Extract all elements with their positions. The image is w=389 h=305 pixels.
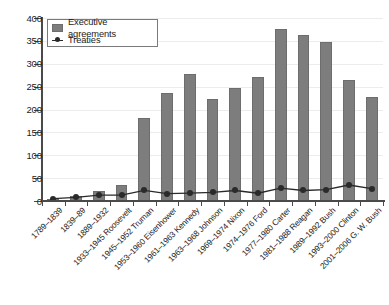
y-axis-tick-label: 400 xyxy=(12,14,42,23)
data-point-marker xyxy=(164,191,170,197)
data-point-marker xyxy=(187,190,193,196)
data-point-marker xyxy=(323,187,329,193)
legend: Executive agreements Treaties xyxy=(47,19,158,47)
data-point-marker xyxy=(369,186,375,192)
data-point-marker xyxy=(96,192,102,198)
y-axis-tick-label: 300 xyxy=(12,59,42,68)
data-point-marker xyxy=(210,189,216,195)
y-axis-tick-label: 200 xyxy=(12,105,42,114)
line-dot-icon xyxy=(52,36,63,44)
data-point-marker xyxy=(119,192,125,198)
y-axis-tick-label: 150 xyxy=(12,128,42,137)
legend-item-executive-agreements: Executive agreements xyxy=(52,22,154,34)
chart-container: 050100150200250300350400 1789–18391839–8… xyxy=(0,0,389,305)
x-axis-labels: 1789–18391839–891889–19321933–1945 Roose… xyxy=(0,206,389,305)
y-axis-tick-label: 250 xyxy=(12,82,42,91)
x-axis-line xyxy=(41,200,385,202)
legend-label-treaties: Treaties xyxy=(68,34,100,46)
y-axis-tick-label: 100 xyxy=(12,151,42,160)
y-axis-tick-label: 0 xyxy=(12,197,42,206)
data-point-marker xyxy=(278,185,284,191)
data-point-marker xyxy=(346,182,352,188)
y-axis-tick-label: 50 xyxy=(12,174,42,183)
bar-swatch-icon xyxy=(52,24,63,32)
y-axis-tick-label: 350 xyxy=(12,36,42,45)
